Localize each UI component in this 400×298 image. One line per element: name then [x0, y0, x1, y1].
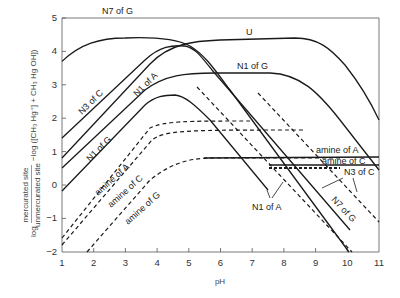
- y-axis-title-denominator: unmercurated site: [33, 162, 42, 227]
- y-tick-label: 5: [52, 12, 57, 23]
- x-tick-label: 7: [250, 257, 255, 268]
- x-tick-label: 4: [154, 257, 159, 268]
- arrow-n1-of-a-2: [272, 182, 283, 198]
- curve-amine-of-a: [62, 121, 250, 238]
- y-tick-label: −2: [46, 246, 57, 257]
- y-axis-labels: 5 4 3 2 1 0 −1 −2: [46, 12, 57, 257]
- y-tick-label: 4: [52, 45, 57, 56]
- label-u: U: [246, 27, 253, 37]
- y-axis-title-numerator: mercurated site: [21, 167, 30, 223]
- x-tick-label: 6: [218, 257, 223, 268]
- label-amine-of-a-right: amine of A: [316, 145, 359, 155]
- x-tick-label: 3: [123, 257, 128, 268]
- x-tick-label: 5: [186, 257, 191, 268]
- chart: 5 4 3 2 1 0 −1 −2 1 2 3 4 5 6 7 8 9 10 1…: [0, 0, 400, 298]
- x-axis-labels: 1 2 3 4 5 6 7 8 9 10 11: [59, 257, 384, 268]
- label-n1-of-a-left: N1 of A: [131, 70, 159, 98]
- x-tick-label: 10: [342, 257, 353, 268]
- y-tick-label: 0: [52, 179, 57, 190]
- x-axis-title: pH: [215, 277, 225, 286]
- arrow-n3-of-c-1: [322, 178, 343, 188]
- x-tick-label: 11: [374, 257, 384, 268]
- plot-frame: [62, 18, 379, 252]
- arrow-n3-of-c-2: [353, 178, 357, 192]
- y-axis-title-suffix: −log ([CH₃ Hg⁺] + CH₃ Hg OH]): [29, 49, 38, 161]
- label-n1-of-g-top: N1 of G: [237, 61, 268, 71]
- label-n3-of-c-right: N3 of C: [344, 167, 375, 177]
- arrow-n1-of-a-1: [267, 190, 270, 198]
- label-n1-of-a-bottom: N1 of A: [252, 202, 282, 212]
- x-tick-label: 2: [91, 257, 96, 268]
- y-tick-label: 1: [52, 146, 57, 157]
- label-amine-of-g-left: amine of G: [123, 190, 162, 227]
- x-axis-ticks: [94, 248, 348, 252]
- y-tick-label: −1: [46, 212, 57, 223]
- y-tick-label: 2: [52, 112, 57, 123]
- x-tick-label: 9: [313, 257, 318, 268]
- label-n7-of-g-right: N7 of G: [330, 195, 358, 225]
- y-axis-title: log mercurated site unmercurated site −l…: [21, 49, 42, 237]
- annotation-arrows: [267, 178, 357, 198]
- y-tick-label: 3: [52, 79, 57, 90]
- label-n7-of-g-top: N7 of G: [102, 6, 133, 16]
- x-tick-label: 8: [281, 257, 286, 268]
- x-tick-label: 1: [59, 257, 64, 268]
- curve-n1-of-a-dashed: [197, 87, 352, 252]
- label-amine-of-c-right: amine of C: [322, 156, 366, 166]
- label-n1-of-g-left: N1 of G: [84, 134, 113, 163]
